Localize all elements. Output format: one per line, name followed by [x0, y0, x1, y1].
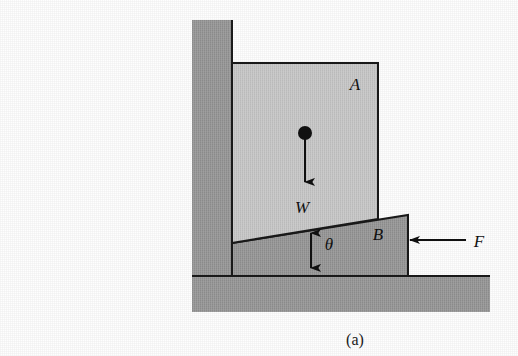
wedge-block-free-body-diagram: A B W θ F (a) — [0, 0, 518, 356]
physics-figure-container: A B W θ F (a) — [0, 0, 518, 356]
block-a-label: A — [349, 75, 361, 94]
angle-label: θ — [325, 235, 333, 254]
vertical-wall — [192, 20, 232, 312]
force-label: F — [473, 232, 485, 251]
figure-caption: (a) — [346, 331, 364, 349]
ground-floor — [192, 276, 490, 312]
weight-label: W — [295, 198, 311, 217]
block-b-label: B — [373, 225, 384, 244]
